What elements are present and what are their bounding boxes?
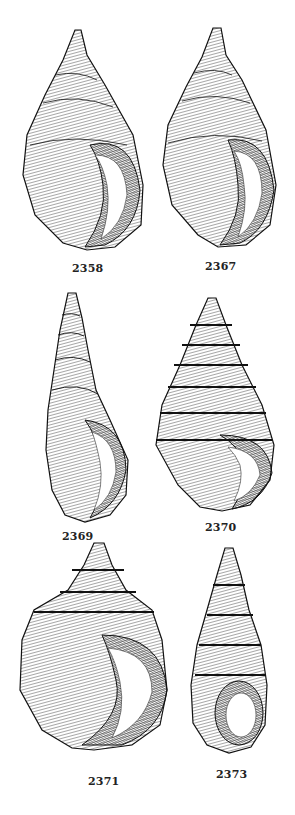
figure-label-2373: 2373 [216, 768, 247, 781]
shell-figure-2369 [30, 290, 135, 525]
figure-label-2371: 2371 [88, 775, 119, 788]
shell-figure-2367 [158, 25, 283, 250]
shell-figure-2373 [185, 545, 275, 755]
figure-label-2367: 2367 [205, 260, 236, 273]
shell-figure-2358 [15, 25, 150, 255]
shell-figure-2370 [150, 295, 280, 515]
figure-label-2370: 2370 [205, 521, 236, 534]
shell-figure-2371 [12, 540, 182, 755]
figure-label-2358: 2358 [72, 262, 103, 275]
